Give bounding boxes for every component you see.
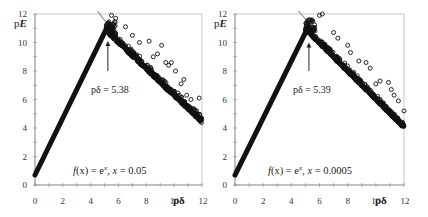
outlier-point bbox=[387, 80, 391, 84]
x-axis-label: pδ bbox=[375, 194, 387, 206]
outlier-point bbox=[182, 78, 186, 82]
outlier-point bbox=[167, 63, 171, 67]
outlier-point bbox=[179, 82, 183, 86]
outlier-point bbox=[151, 55, 155, 59]
x-tick-label: 12 bbox=[199, 196, 208, 206]
outlier-point bbox=[156, 52, 160, 56]
y-tick-label: 0 bbox=[223, 180, 228, 190]
x-axis-label: pδ bbox=[173, 194, 185, 206]
y-axis-label: pE bbox=[214, 17, 227, 29]
x-tick-label: 6 bbox=[116, 196, 121, 206]
outlier-point bbox=[389, 88, 393, 92]
x-tick-label: 4 bbox=[88, 196, 93, 206]
rising-series bbox=[235, 33, 305, 176]
y-tick-label: 6 bbox=[223, 95, 228, 105]
y-tick-label: 8 bbox=[223, 66, 228, 76]
peak-arrow bbox=[306, 43, 311, 72]
y-tick-label: 4 bbox=[23, 123, 28, 133]
x-tick-label: 4 bbox=[289, 196, 294, 206]
y-axis-label: pE bbox=[14, 17, 27, 29]
x-tick-label: 2 bbox=[261, 196, 266, 206]
outlier-point bbox=[378, 79, 382, 83]
right-panel: 024681012024681012 pE pδ pδ = 5.39 f(x) … bbox=[214, 9, 410, 206]
outlier-point bbox=[124, 25, 128, 29]
formula-label: f(x) = ex, x = 0.0005 bbox=[268, 164, 352, 177]
y-tick-label: 6 bbox=[23, 95, 28, 105]
outlier-point bbox=[189, 98, 193, 102]
y-tick-label: 4 bbox=[223, 123, 228, 133]
formula-label: f(x) = ex, x = 0.05 bbox=[73, 164, 147, 177]
outlier-point bbox=[368, 66, 372, 70]
peak-annotation: pδ = 5.39 bbox=[293, 84, 331, 95]
x-tick-label: 2 bbox=[61, 196, 66, 206]
outlier-point bbox=[357, 59, 361, 63]
y-tick-label: 10 bbox=[218, 38, 228, 48]
outlier-point bbox=[392, 93, 396, 97]
y-tick-label: 10 bbox=[18, 38, 28, 48]
peak-annotation: pδ = 5.38 bbox=[91, 84, 129, 95]
x-tick-label: 8 bbox=[144, 196, 149, 206]
x-tick-label: 0 bbox=[233, 196, 238, 206]
arrow-head-icon bbox=[105, 41, 110, 46]
x-tick-label: 8 bbox=[345, 196, 350, 206]
outlier-point bbox=[336, 36, 340, 40]
rising-series bbox=[35, 30, 106, 175]
y-tick-label: 2 bbox=[223, 152, 228, 162]
peak-arrow bbox=[105, 41, 110, 71]
y-tick-label: 8 bbox=[23, 66, 28, 76]
outlier-point bbox=[346, 43, 350, 47]
x-tick-label: 0 bbox=[33, 196, 38, 206]
outlier-point bbox=[137, 41, 141, 45]
outlier-point bbox=[396, 99, 400, 103]
x-tick-label: 12 bbox=[401, 196, 410, 206]
outlier-point bbox=[130, 33, 134, 37]
outlier-point bbox=[160, 43, 164, 47]
outlier-point bbox=[349, 51, 353, 55]
arrow-head-icon bbox=[306, 43, 311, 48]
outlier-point bbox=[364, 61, 368, 65]
outlier-point bbox=[197, 96, 201, 100]
chart-figure: 024681012024681012 pE pδ pδ = 5.38 f(x) … bbox=[0, 0, 428, 217]
left-panel: 024681012024681012 pE pδ pδ = 5.38 f(x) … bbox=[14, 9, 208, 206]
y-tick-label: 2 bbox=[23, 152, 28, 162]
outlier-point bbox=[185, 93, 189, 97]
y-tick-label: 0 bbox=[23, 180, 28, 190]
outlier-point bbox=[374, 82, 378, 86]
outlier-point bbox=[332, 31, 336, 35]
outlier-point bbox=[147, 39, 151, 43]
outlier-point bbox=[174, 69, 178, 73]
x-tick-label: 6 bbox=[317, 196, 322, 206]
